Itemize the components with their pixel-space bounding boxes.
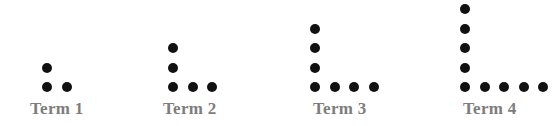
- term-label: Term 3: [313, 100, 367, 117]
- pattern-dot: [310, 63, 320, 73]
- term-label: Term 4: [463, 100, 517, 117]
- pattern-dot: [460, 82, 470, 92]
- pattern-dot: [330, 82, 340, 92]
- pattern-dot: [460, 63, 470, 73]
- pattern-dot: [207, 82, 217, 92]
- pattern-dot: [538, 82, 548, 92]
- pattern-dot: [168, 82, 178, 92]
- pattern-dot: [42, 82, 52, 92]
- pattern-dot: [168, 43, 178, 53]
- pattern-dot: [460, 43, 470, 53]
- pattern-dot: [62, 82, 72, 92]
- pattern-dot: [42, 63, 52, 73]
- pattern-dot: [460, 4, 470, 14]
- pattern-dot: [369, 82, 379, 92]
- pattern-dot: [168, 63, 178, 73]
- pattern-dot: [499, 82, 509, 92]
- pattern-dot: [480, 82, 490, 92]
- pattern-dot: [188, 82, 198, 92]
- term-label: Term 2: [163, 100, 217, 117]
- term-label: Term 1: [30, 100, 84, 117]
- pattern-dot: [310, 82, 320, 92]
- pattern-dot: [349, 82, 359, 92]
- pattern-dot: [460, 24, 470, 34]
- pattern-dot: [310, 43, 320, 53]
- pattern-dot: [310, 24, 320, 34]
- pattern-dot: [519, 82, 529, 92]
- dot-pattern-figure: Term 1Term 2Term 3Term 4: [0, 0, 560, 126]
